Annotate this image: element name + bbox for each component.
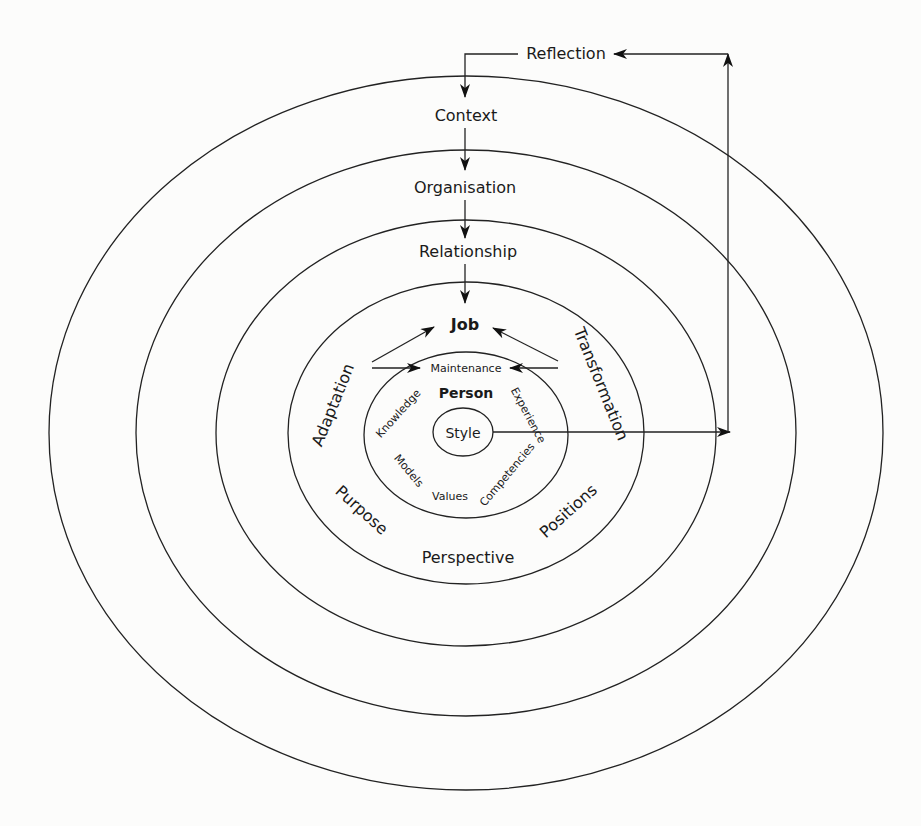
label-job: Job: [450, 315, 479, 334]
label-positions: Positions: [536, 480, 601, 541]
label-maintenance: Maintenance: [431, 362, 502, 375]
label-knowledge: Knowledge: [373, 387, 423, 441]
transformation-to-job-arrow: [493, 328, 558, 361]
label-reflection: Reflection: [526, 44, 606, 63]
label-person: Person: [439, 385, 494, 401]
label-experience: Experience: [508, 385, 548, 445]
label-values: Values: [432, 490, 468, 503]
label-organisation: Organisation: [414, 178, 516, 197]
diagram-canvas: Reflection Context Organisation Relation…: [0, 0, 921, 826]
label-purpose: Purpose: [331, 481, 391, 538]
label-perspective: Perspective: [422, 548, 515, 567]
label-style: Style: [445, 425, 480, 441]
label-competencies: Competencies: [477, 440, 538, 509]
adaptation-to-job-arrow: [372, 327, 434, 362]
label-adaptation: Adaptation: [308, 361, 358, 449]
label-models: Models: [391, 452, 426, 490]
label-context: Context: [435, 106, 498, 125]
label-relationship: Relationship: [419, 242, 517, 261]
label-transformation: Transformation: [569, 324, 632, 443]
